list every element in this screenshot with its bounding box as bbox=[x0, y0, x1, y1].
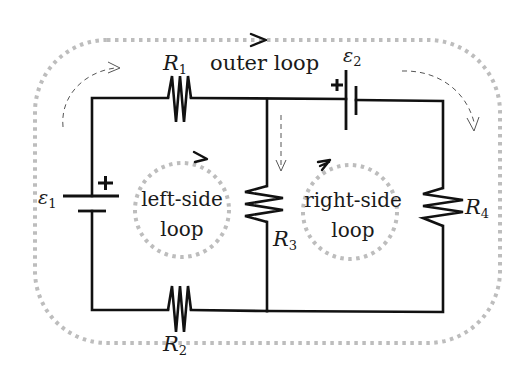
left-side-loop-label-line1: left-side bbox=[141, 187, 223, 211]
resistor-r2-icon bbox=[168, 286, 191, 332]
right-side-loop-label-line2: loop bbox=[331, 218, 374, 242]
right-side-loop-direction-arrow-icon bbox=[318, 160, 330, 170]
current-arrow-top-left-head-icon bbox=[108, 62, 120, 73]
circuit-diagram: R1 outer loop ε2 ε1 left-side loop right… bbox=[0, 0, 531, 376]
r3-label: R3 bbox=[272, 227, 297, 253]
left-side-loop-label-line2: loop bbox=[160, 217, 203, 241]
r2-label: R2 bbox=[162, 332, 187, 358]
e2-label: ε2 bbox=[343, 44, 361, 69]
r1-label: R1 bbox=[162, 51, 187, 77]
r4-label: R4 bbox=[464, 195, 489, 221]
outer-loop-label: outer loop bbox=[210, 51, 319, 75]
current-arrow-top-right bbox=[402, 71, 474, 122]
resistor-r1-icon bbox=[168, 76, 191, 122]
right-side-loop-path bbox=[303, 165, 397, 259]
resistor-r3-icon bbox=[245, 186, 283, 222]
resistor-r4-icon bbox=[423, 188, 463, 226]
right-side-loop-label-line1: right-side bbox=[304, 188, 402, 212]
left-side-loop-direction-arrow-icon bbox=[194, 152, 207, 162]
e1-label: ε1 bbox=[38, 186, 56, 211]
